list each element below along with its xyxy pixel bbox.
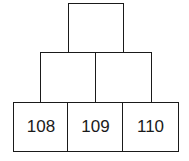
pyramid-bottom-cell-2: 109 <box>67 102 124 152</box>
pyramid-top-cell <box>68 3 124 53</box>
pyramid-middle-cell-right <box>95 52 152 103</box>
pyramid-bottom-cell-1: 108 <box>13 102 69 152</box>
pyramid-middle-cell-left <box>40 52 97 103</box>
pyramid-bottom-cell-3: 110 <box>122 102 179 152</box>
